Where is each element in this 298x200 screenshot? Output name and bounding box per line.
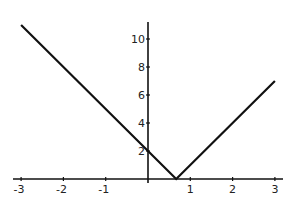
x-tick-label: -1 <box>98 183 109 196</box>
y-tick-label: 2 <box>138 145 145 158</box>
x-tick-label: 2 <box>229 183 236 196</box>
y-tick-label: 6 <box>138 89 145 102</box>
y-tick-label: 4 <box>138 117 145 130</box>
y-tick-label: 8 <box>138 61 145 74</box>
y-tick-label: 10 <box>131 33 145 46</box>
x-tick-label: 1 <box>187 183 194 196</box>
x-tick-label: -2 <box>56 183 67 196</box>
axes <box>13 22 283 183</box>
line-chart: -3-2-1123246810 <box>0 0 298 200</box>
x-tick-label: -3 <box>14 183 25 196</box>
x-tick-label: 3 <box>271 183 278 196</box>
